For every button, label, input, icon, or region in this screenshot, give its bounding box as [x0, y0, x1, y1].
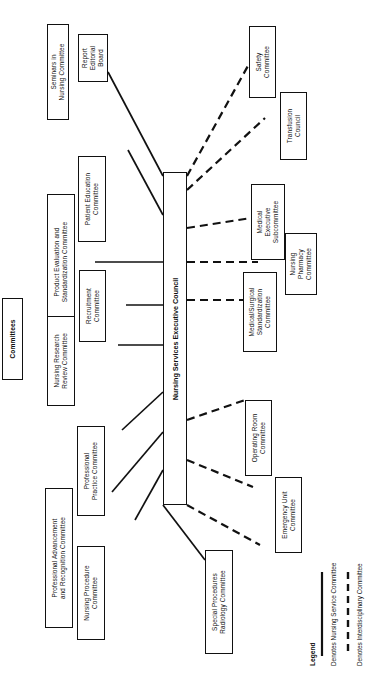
node-label: Nursing ResearchReview Committee: [53, 333, 69, 389]
node-label: TransfusionCouncil: [286, 109, 302, 144]
legend-item-nursing-service-label: Denotes Nursing Service Committee: [330, 563, 338, 666]
node-label: MedicalExecutiveSubcommittee: [256, 201, 279, 243]
node-emergency-unit[interactable]: Emergency UnitCommittee: [275, 477, 302, 553]
node-label: Professional Advancementand Recognition …: [51, 517, 67, 599]
node-label: Operating RoomCommittee: [251, 414, 267, 463]
node-medsurg-standardization[interactable]: Medical/SurgicalStandardizationCommittee: [243, 272, 277, 352]
node-label: ReportEditorialBoard: [81, 46, 104, 70]
node-recruitment[interactable]: RecruitmentCommittee: [79, 270, 106, 342]
root-node-nursing-services-executive-council[interactable]: Nursing Services Executive Council: [163, 172, 187, 505]
node-report-editorial-board[interactable]: ReportEditorialBoard: [78, 34, 108, 82]
node-label: Nursing ProcedureCommittee: [83, 565, 99, 620]
node-nursing-procedure[interactable]: Nursing ProcedureCommittee: [77, 546, 105, 640]
node-product-evaluation-standardization[interactable]: Product Evaluation andStandardization Co…: [47, 194, 75, 330]
node-operating-room[interactable]: Operating RoomCommittee: [245, 400, 272, 476]
diagram-header-label: Committees: [8, 319, 16, 358]
node-nursing-pharmacy[interactable]: NursingPharmacyCommittee: [285, 233, 317, 295]
node-professional-advancement-recognition[interactable]: Professional Advancementand Recognition …: [45, 488, 73, 628]
root-node-label: Nursing Services Executive Council: [171, 277, 180, 400]
node-professional-practice[interactable]: ProfessionalPractice Committee: [77, 426, 105, 516]
node-medical-executive-subcommittee[interactable]: MedicalExecutiveSubcommittee: [251, 184, 285, 260]
node-label: SafetyCommittee: [255, 46, 271, 78]
node-label: Special ProceduresRadiology Committee: [211, 570, 227, 634]
node-label: Seminars inNursing Committee: [50, 44, 66, 101]
node-patient-education[interactable]: Patient EducationCommittee: [78, 156, 106, 242]
node-label: Product Evaluation andStandardization Co…: [53, 222, 69, 302]
legend: Legend Denotes Nursing Service Committee…: [300, 560, 373, 674]
diagram-header: Committees: [2, 298, 23, 380]
node-label: RecruitmentCommittee: [85, 288, 101, 324]
node-safety[interactable]: SafetyCommittee: [249, 26, 276, 98]
node-nursing-research-review[interactable]: Nursing ResearchReview Committee: [47, 316, 75, 406]
org-chart-canvas: Committees Nursing Services Executive Co…: [0, 0, 373, 674]
node-label: Patient EducationCommittee: [84, 173, 100, 225]
node-label: Medical/SurgicalStandardizationCommittee: [248, 288, 271, 337]
node-label: ProfessionalPractice Committee: [83, 442, 99, 500]
legend-item-interdisciplinary-label: Denotes Interdisciplinary Committee: [356, 563, 364, 666]
node-label: NursingPharmacyCommittee: [289, 248, 312, 280]
node-special-procedures-radiology[interactable]: Special ProceduresRadiology Committee: [205, 550, 233, 654]
node-label: Emergency UnitCommittee: [281, 491, 297, 538]
node-transfusion-council[interactable]: TransfusionCouncil: [280, 92, 307, 160]
node-seminars-in-nursing[interactable]: Seminars inNursing Committee: [47, 24, 69, 120]
